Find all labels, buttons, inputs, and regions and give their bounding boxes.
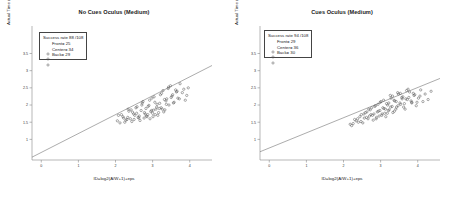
scatter-plot-right: 0123411.522.533.5 <box>228 0 456 198</box>
svg-text:2.5: 2.5 <box>251 86 256 90</box>
legend-item-front: Front= 29 <box>268 39 308 44</box>
legend-title: Success rate 88 /108 <box>43 35 83 40</box>
svg-text:1: 1 <box>26 138 28 142</box>
svg-text:3.5: 3.5 <box>23 52 28 56</box>
x-axis-label: ID=log2(A/W+1)+eps <box>0 176 228 181</box>
circle-marker-icon <box>271 40 275 44</box>
svg-text:2: 2 <box>26 103 28 107</box>
svg-text:3.5: 3.5 <box>251 52 256 56</box>
legend: Success rate 94 /108 Front= 29 Center= 3… <box>264 30 312 58</box>
svg-text:3: 3 <box>254 69 256 73</box>
svg-text:1: 1 <box>77 164 79 168</box>
legend-item-label: Back= 29 <box>52 52 70 57</box>
svg-text:3: 3 <box>380 164 382 168</box>
svg-text:3: 3 <box>26 69 28 73</box>
svg-text:1: 1 <box>305 164 307 168</box>
svg-text:2.5: 2.5 <box>23 86 28 90</box>
circle-marker-icon <box>46 53 50 57</box>
legend-title: Success rate 94 /108 <box>268 33 308 38</box>
legend-item-label: Center= 36 <box>277 45 298 50</box>
scatter-plot-left: 0123411.522.533.5 <box>0 0 228 198</box>
svg-text:2: 2 <box>343 164 345 168</box>
y-axis-label: Actual Time (sec) <box>6 0 11 48</box>
circle-marker-icon <box>46 47 50 51</box>
legend-item-back: Back= 29 <box>43 52 83 57</box>
x-axis-label: ID=log2(A/W+1)+eps <box>228 176 456 181</box>
legend-item-label: Center= 34 <box>52 47 73 52</box>
svg-text:0: 0 <box>40 164 42 168</box>
svg-text:1.5: 1.5 <box>251 121 256 125</box>
svg-text:4: 4 <box>189 164 191 168</box>
legend-item-front: Front= 25 <box>43 41 83 46</box>
panel-cues-oculus-medium: Cues Oculus (Medium) 0123411.522.533.5 I… <box>228 0 456 198</box>
legend-item-back: Back= 30 <box>268 50 308 55</box>
svg-text:2: 2 <box>254 103 256 107</box>
y-axis-label: Actual Time (sec) <box>234 0 239 48</box>
legend-item-center: Center= 34 <box>43 47 83 52</box>
panel-no-cues-oculus-medium: No Cues Oculus (Medium) 0123411.522.533.… <box>0 0 228 198</box>
svg-text:3: 3 <box>152 164 154 168</box>
svg-text:4: 4 <box>417 164 419 168</box>
legend-item-label: Back= 30 <box>277 50 295 55</box>
svg-text:0: 0 <box>268 164 270 168</box>
legend-item-center: Center= 36 <box>268 45 308 50</box>
legend: Success rate 88 /108 Front= 25 Center= 3… <box>39 32 87 60</box>
circle-marker-icon <box>271 45 275 49</box>
legend-item-label: Front= 29 <box>277 39 296 44</box>
svg-text:1: 1 <box>254 138 256 142</box>
figure-container: No Cues Oculus (Medium) 0123411.522.533.… <box>0 0 456 198</box>
circle-marker-icon <box>46 42 50 46</box>
svg-text:1.5: 1.5 <box>23 121 28 125</box>
legend-item-label: Front= 25 <box>52 41 71 46</box>
circle-marker-icon <box>271 51 275 55</box>
svg-text:2: 2 <box>115 164 117 168</box>
